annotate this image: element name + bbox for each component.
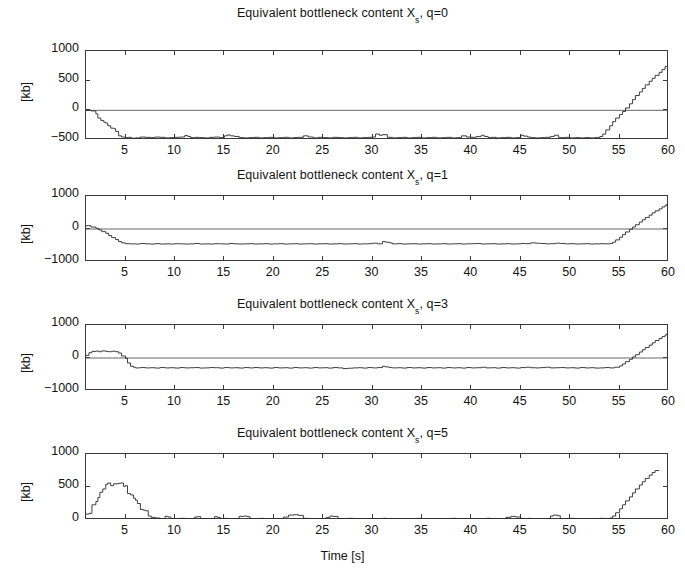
panel-title-subscript-q5: s: [415, 435, 419, 445]
data-series-line-q1: [86, 204, 667, 244]
panel-title-prefix-q0: Equivalent bottleneck content X: [237, 6, 415, 20]
panel-title-q0: Equivalent bottleneck content Xs, q=0: [0, 6, 685, 23]
y-tick-label-q0-0: 1000: [23, 41, 79, 55]
x-tick-label-q3-0: 5: [105, 394, 145, 408]
panel-title-suffix-q0: , q=0: [419, 6, 448, 20]
x-tick-label-q3-3: 20: [253, 394, 293, 408]
panel-title-subscript-q0: s: [415, 15, 419, 25]
x-tick-label-q0-0: 5: [105, 143, 145, 157]
x-tick-label-q0-6: 35: [401, 143, 441, 157]
x-axis-label: Time [s]: [0, 549, 685, 563]
panel-title-prefix-q3: Equivalent bottleneck content X: [237, 297, 415, 311]
y-tick-label-q0-1: 500: [23, 71, 79, 85]
x-tick-label-q3-10: 55: [599, 394, 639, 408]
x-tick-label-q3-5: 30: [352, 394, 392, 408]
x-tick-label-q1-8: 45: [500, 265, 540, 279]
panel-title-suffix-q3: , q=3: [419, 297, 448, 311]
y-tick-label-q3-1: 0: [23, 348, 79, 362]
panel-title-prefix-q5: Equivalent bottleneck content X: [237, 426, 415, 440]
y-tick-label-q5-1: 500: [23, 477, 79, 491]
panel-title-subscript-q3: s: [415, 306, 419, 316]
x-tick-label-q1-2: 15: [203, 265, 243, 279]
x-tick-label-q3-1: 10: [154, 394, 194, 408]
y-tick-label-q5-2: 0: [23, 510, 79, 524]
series-svg-q0: [86, 51, 669, 140]
x-tick-label-9: 50: [549, 523, 589, 537]
x-tick-label-1: 10: [154, 523, 194, 537]
x-tick-label-8: 45: [500, 523, 540, 537]
panel-title-prefix-q1: Equivalent bottleneck content X: [237, 168, 415, 182]
x-tick-label-q1-3: 20: [253, 265, 293, 279]
x-tick-label-2: 15: [203, 523, 243, 537]
y-tick-label-q3-2: −1000: [23, 381, 79, 395]
x-tick-label-0: 5: [105, 523, 145, 537]
x-tick-label-q0-4: 25: [302, 143, 342, 157]
y-tick-label-q1-2: −1000: [23, 252, 79, 266]
x-tick-label-q0-7: 40: [450, 143, 490, 157]
x-tick-label-q1-7: 40: [450, 265, 490, 279]
figure-container: Equivalent bottleneck content Xs, q=0 [k…: [0, 0, 685, 576]
x-tick-label-10: 55: [599, 523, 639, 537]
panel-title-q3: Equivalent bottleneck content Xs, q=3: [0, 297, 685, 314]
x-tick-label-6: 35: [401, 523, 441, 537]
x-tick-label-q1-10: 55: [599, 265, 639, 279]
x-tick-label-q3-9: 50: [549, 394, 589, 408]
data-series-line-q3: [86, 333, 667, 368]
x-tick-label-11: 60: [648, 523, 685, 537]
data-series-line-q0: [86, 66, 667, 138]
y-tick-label-q0-2: 0: [23, 100, 79, 114]
x-tick-label-q1-4: 25: [302, 265, 342, 279]
series-svg-q3: [86, 325, 669, 391]
x-tick-label-q1-1: 10: [154, 265, 194, 279]
x-tick-label-q0-5: 30: [352, 143, 392, 157]
x-tick-label-q0-1: 10: [154, 143, 194, 157]
panel-q0: Equivalent bottleneck content Xs, q=0 [k…: [0, 0, 685, 165]
x-tick-label-q3-2: 15: [203, 394, 243, 408]
x-tick-label-q1-11: 60: [648, 265, 685, 279]
x-tick-label-4: 25: [302, 523, 342, 537]
y-tick-label-q1-1: 0: [23, 219, 79, 233]
x-tick-label-q0-9: 50: [549, 143, 589, 157]
series-svg-q1: [86, 196, 669, 262]
x-tick-label-q1-9: 50: [549, 265, 589, 279]
x-tick-label-q3-8: 45: [500, 394, 540, 408]
x-tick-label-q0-8: 45: [500, 143, 540, 157]
x-tick-label-q1-6: 35: [401, 265, 441, 279]
panel-title-suffix-q1: , q=1: [419, 168, 448, 182]
x-tick-label-q3-6: 35: [401, 394, 441, 408]
x-tick-label-q3-7: 40: [450, 394, 490, 408]
y-tick-label-q3-0: 1000: [23, 315, 79, 329]
y-tick-label-q1-0: 1000: [23, 186, 79, 200]
x-tick-label-7: 40: [450, 523, 490, 537]
x-tick-label-q0-3: 20: [253, 143, 293, 157]
x-tick-label-q0-2: 15: [203, 143, 243, 157]
panel-q5: Equivalent bottleneck content Xs, q=5 [k…: [0, 423, 685, 576]
x-tick-label-q3-4: 25: [302, 394, 342, 408]
x-tick-label-q3-11: 60: [648, 394, 685, 408]
x-tick-label-q0-11: 60: [648, 143, 685, 157]
panel-title-q5: Equivalent bottleneck content Xs, q=5: [0, 426, 685, 443]
x-tick-label-q0-10: 55: [599, 143, 639, 157]
x-tick-label-q1-0: 5: [105, 265, 145, 279]
panel-title-suffix-q5: , q=5: [419, 426, 448, 440]
data-series-line-q5: [86, 471, 659, 519]
x-tick-label-5: 30: [352, 523, 392, 537]
x-tick-label-q1-5: 30: [352, 265, 392, 279]
series-svg-q5: [86, 454, 669, 520]
x-tick-label-3: 20: [253, 523, 293, 537]
y-tick-label-q0-3: −500: [23, 130, 79, 144]
panel-title-subscript-q1: s: [415, 177, 419, 187]
panel-q1: Equivalent bottleneck content Xs, q=1 [k…: [0, 165, 685, 294]
panel-q3: Equivalent bottleneck content Xs, q=3 [k…: [0, 294, 685, 423]
panel-title-q1: Equivalent bottleneck content Xs, q=1: [0, 168, 685, 185]
y-tick-label-q5-0: 1000: [23, 444, 79, 458]
